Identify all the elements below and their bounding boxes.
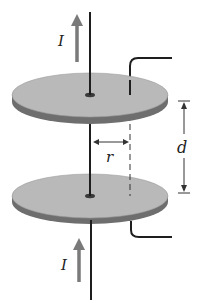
radius-label: r xyxy=(106,148,114,166)
current-label-top: I xyxy=(57,32,65,50)
bottom-terminal-wire xyxy=(131,221,172,237)
current-label-bottom: I xyxy=(60,256,68,274)
current-arrowhead-bottom xyxy=(73,238,85,250)
current-arrowhead-top xyxy=(71,14,83,26)
capacitor-diagram: I r d I xyxy=(0,0,207,303)
separation-label: d xyxy=(177,138,187,157)
radius-dimension xyxy=(93,139,129,145)
